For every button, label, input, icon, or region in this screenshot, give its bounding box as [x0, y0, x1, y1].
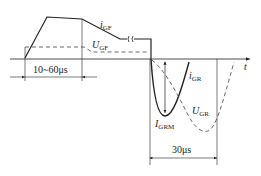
ugr-label: UGR: [192, 105, 209, 118]
igr-waveform: [151, 59, 189, 116]
break-symbol: [128, 36, 133, 42]
igf-waveform-tail: [134, 39, 151, 59]
turn-off-width-label: 30μs: [172, 144, 191, 155]
ugf-waveform: [25, 47, 148, 52]
igrm-label: IGRM: [154, 118, 175, 131]
ugf-label: UGF: [92, 39, 108, 52]
ugr-waveform: [152, 60, 234, 131]
waveform-diagram: 10~60μs 30μs iGF UGF iGR UGR IGRM t: [0, 0, 261, 176]
turn-on-width-label: 10~60μs: [33, 64, 68, 75]
waveform-svg: 10~60μs 30μs iGF UGF iGR UGR IGRM t: [0, 0, 261, 176]
t-axis-label: t: [244, 61, 247, 72]
igr-label: iGR: [189, 70, 202, 83]
